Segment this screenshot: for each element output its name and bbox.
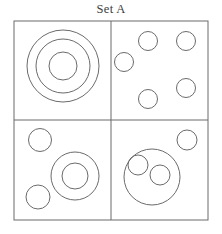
figure-container: Set A — [0, 0, 222, 234]
quadrant-top-left — [27, 30, 99, 102]
small-circle-inside — [128, 155, 148, 175]
small-circle — [115, 53, 134, 72]
frame-group — [14, 21, 208, 220]
small-circle — [29, 129, 52, 152]
concentric-circle-middle — [36, 39, 90, 93]
small-circle-inside — [150, 165, 170, 185]
quadrant-top-right — [115, 32, 196, 109]
concentric-circle-inner — [49, 52, 77, 80]
diagram-canvas — [0, 0, 222, 234]
enclosing-circle — [124, 149, 180, 205]
small-circle — [177, 79, 196, 98]
concentric-circle-outer — [51, 152, 99, 200]
quadrant-bottom-right — [124, 130, 197, 205]
concentric-circle-inner — [62, 163, 88, 189]
small-circle-outside — [177, 130, 197, 150]
quadrant-bottom-left — [26, 129, 99, 210]
small-circle — [26, 185, 50, 209]
small-circle — [177, 32, 196, 51]
small-circle — [139, 90, 158, 109]
concentric-circle-outer — [27, 30, 99, 102]
small-circle — [139, 32, 158, 51]
